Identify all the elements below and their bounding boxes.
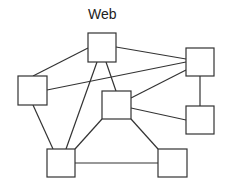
node-top (88, 33, 116, 62)
edge-left-bottom-left (33, 105, 53, 149)
node-bottom-left (47, 149, 75, 177)
nodes-group (18, 33, 214, 177)
network-diagram (0, 0, 227, 189)
node-bottom-right (158, 149, 187, 177)
node-middle (102, 91, 131, 119)
edge-middle-bottom-left (75, 119, 102, 149)
edge-middle-right-bottom (131, 108, 186, 120)
node-left (18, 76, 47, 105)
edge-left-right-top (47, 62, 186, 90)
edge-middle-bottom-right (131, 119, 158, 149)
edge-top-left (33, 48, 88, 76)
edge-top-bottom-left (66, 62, 97, 149)
node-right-bottom (186, 106, 214, 134)
node-right-top (186, 48, 214, 76)
edge-middle-right-top (131, 70, 186, 98)
edge-top-right-top (116, 47, 186, 59)
